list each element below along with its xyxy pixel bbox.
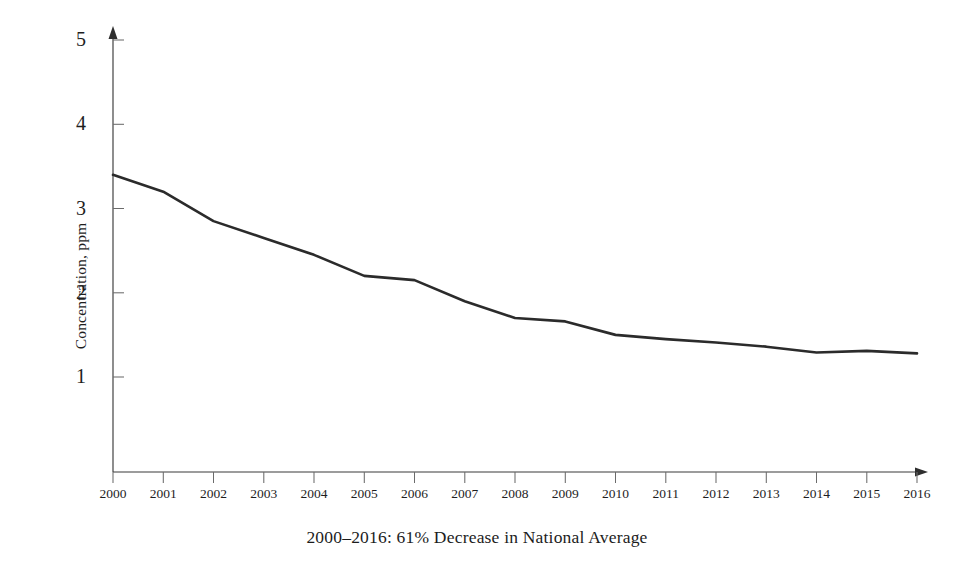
y-tick-label: 4 <box>66 113 96 133</box>
x-tick-label: 2015 <box>853 487 880 501</box>
x-tick-label: 2013 <box>753 487 780 501</box>
y-axis-arrowhead <box>109 26 118 39</box>
x-tick-label: 2016 <box>904 487 931 501</box>
y-axis-ticks <box>113 40 124 377</box>
x-tick-label: 2008 <box>502 487 529 501</box>
x-tick-label: 2010 <box>602 487 629 501</box>
x-tick-label: 2011 <box>653 487 680 501</box>
y-tick-label: 3 <box>66 198 96 218</box>
y-tick-label: 1 <box>66 366 96 386</box>
x-tick-label: 2006 <box>401 487 428 501</box>
x-tick-label: 2004 <box>301 487 328 501</box>
x-tick-label: 2003 <box>250 487 277 501</box>
x-tick-label: 2012 <box>703 487 730 501</box>
x-tick-label: 2007 <box>451 487 478 501</box>
data-series-line <box>113 175 917 354</box>
x-tick-label: 2002 <box>200 487 227 501</box>
x-axis-ticks <box>113 472 917 483</box>
y-tick-label: 5 <box>66 29 96 49</box>
x-tick-label: 2001 <box>150 487 177 501</box>
line-chart: 12345 2000200120022003200420052006200720… <box>0 0 954 571</box>
x-tick-label: 2014 <box>803 487 830 501</box>
x-tick-label: 2009 <box>552 487 579 501</box>
x-tick-label: 2005 <box>351 487 378 501</box>
chart-caption: 2000–2016: 61% Decrease in National Aver… <box>0 527 954 548</box>
x-tick-label: 2000 <box>100 487 127 501</box>
y-axis-label: Concentration, ppm <box>72 222 90 349</box>
